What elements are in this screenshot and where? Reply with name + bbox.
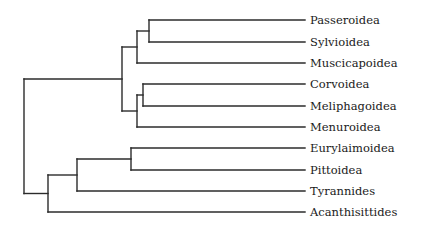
leaf-labels: PasseroideaSylvioideaMuscicapoideaCorvoi… xyxy=(309,13,398,219)
tree-branches xyxy=(24,20,305,212)
leaf-label-acanthisittides: Acanthisittides xyxy=(309,205,397,219)
leaf-label-corvoidea: Corvoidea xyxy=(310,77,369,91)
leaf-label-sylvioidea: Sylvioidea xyxy=(310,35,370,49)
leaf-label-pittoidea: Pittoidea xyxy=(310,163,362,177)
leaf-label-tyrannides: Tyrannides xyxy=(310,184,375,198)
leaf-label-eurylaimoidea: Eurylaimoidea xyxy=(310,141,395,155)
leaf-label-passeroidea: Passeroidea xyxy=(310,13,380,27)
leaf-label-menuroidea: Menuroidea xyxy=(310,120,381,134)
leaf-label-muscicapoidea: Muscicapoidea xyxy=(310,56,398,70)
phylogenetic-tree: PasseroideaSylvioideaMuscicapoideaCorvoi… xyxy=(0,0,428,226)
leaf-label-meliphagoidea: Meliphagoidea xyxy=(310,99,397,113)
